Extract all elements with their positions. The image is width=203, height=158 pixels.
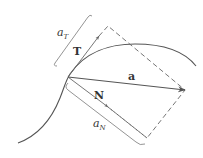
normal-component-label: aN — [93, 117, 107, 132]
tangent-vector-label: T — [73, 45, 82, 58]
normal-vector-label: N — [94, 89, 104, 102]
acceleration-components-diagram: T N a aT aN — [0, 0, 203, 158]
acceleration-vector-label: a — [128, 70, 135, 83]
acceleration-vector-arrow — [68, 77, 185, 90]
tangential-component-bracket — [54, 15, 92, 66]
normal-component-bracket — [66, 83, 145, 145]
trajectory-curve — [18, 44, 196, 143]
tangential-component-label: aT — [57, 26, 70, 41]
